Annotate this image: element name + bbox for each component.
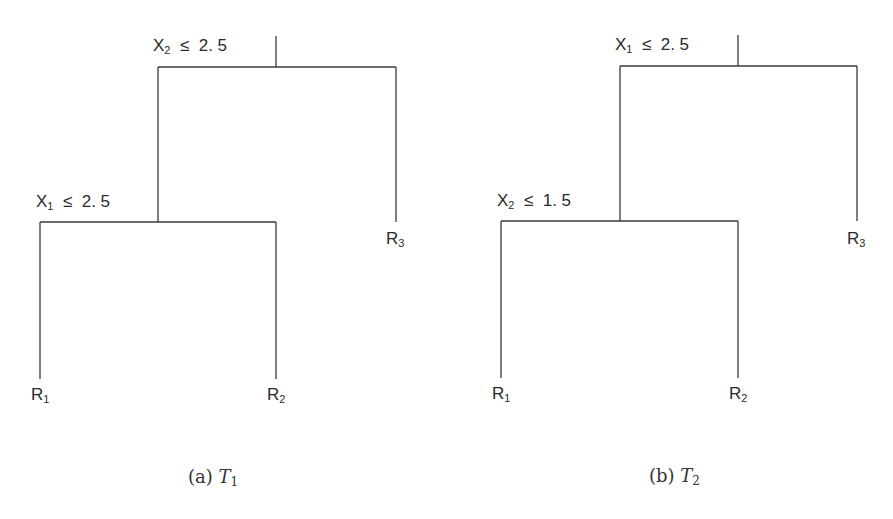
t2-leaf-r1: R1 xyxy=(492,385,510,402)
t1-root-split-label: X2 ≤ 2. 5 xyxy=(153,37,227,54)
t2-root-split-label: X1 ≤ 2. 5 xyxy=(615,36,689,53)
t1-child-split-label: X1 ≤ 2. 5 xyxy=(36,193,110,210)
tree-edges xyxy=(0,0,893,519)
t2-leaf-r3: R3 xyxy=(847,230,865,247)
t2-leaf-r2: R2 xyxy=(729,385,747,402)
t1-caption: (a) T1 xyxy=(188,468,238,486)
t1-leaf-r3: R3 xyxy=(386,230,404,247)
t2-caption: (b) T2 xyxy=(649,467,700,485)
t1-leaf-r1: R1 xyxy=(31,386,49,403)
t1-leaf-r2: R2 xyxy=(267,386,285,403)
t2-child-split-label: X2 ≤ 1. 5 xyxy=(497,192,571,209)
